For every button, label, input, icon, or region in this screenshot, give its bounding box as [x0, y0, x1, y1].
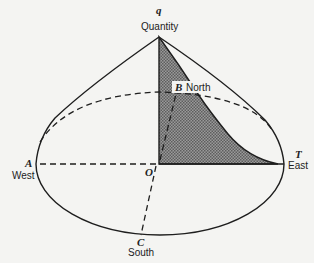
cone-diagram: q Quantity B North A West T East O C Sou… — [0, 0, 314, 263]
base-ellipse-front — [36, 164, 284, 235]
point-o-letter: O — [145, 166, 153, 178]
point-a-letter: A — [24, 157, 32, 169]
point-b-letter: B — [174, 81, 182, 93]
west-label: West — [12, 170, 35, 181]
cone-left-edge — [36, 37, 159, 164]
east-label: East — [288, 160, 308, 171]
shaded-section — [159, 37, 278, 164]
point-t-letter: T — [295, 148, 303, 160]
apex-letter: q — [156, 4, 162, 16]
south-label: South — [128, 247, 154, 258]
north-label: North — [186, 82, 210, 93]
apex-label: Quantity — [141, 21, 178, 32]
